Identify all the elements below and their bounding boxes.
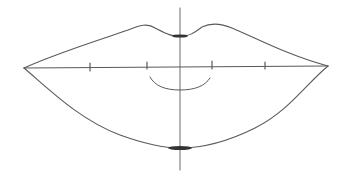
upper-lip-shading xyxy=(172,34,188,37)
lower-lip-outline xyxy=(24,66,328,148)
horizontal-mouth-guide xyxy=(24,66,328,68)
upper-lip-outline xyxy=(24,24,328,68)
lips-sketch xyxy=(0,0,348,179)
lower-lip-shading xyxy=(168,146,192,150)
